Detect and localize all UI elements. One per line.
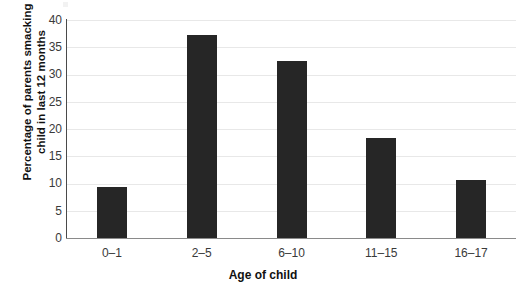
bar-chart: Percentage of parents smacking child in …: [0, 0, 526, 294]
y-tick-label: 35: [36, 41, 62, 53]
gridline: [67, 238, 516, 239]
bar: [97, 187, 127, 238]
x-tick-label: 0–1: [72, 246, 152, 260]
x-tick-label: 16–17: [431, 246, 511, 260]
plot-area: [67, 20, 516, 238]
gridline: [67, 47, 516, 48]
bar: [456, 180, 486, 238]
x-axis-title: Age of child: [0, 268, 526, 282]
bar: [277, 61, 307, 238]
y-tick-label: 20: [36, 123, 62, 135]
y-tick-label: 30: [36, 68, 62, 80]
x-tick-label: 11–15: [341, 246, 421, 260]
y-tick-label: 25: [36, 96, 62, 108]
x-tick-label: 6–10: [252, 246, 332, 260]
y-tick-label: 40: [36, 14, 62, 26]
bar: [187, 35, 217, 238]
bar: [366, 138, 396, 238]
y-tick-label: 0: [36, 232, 62, 244]
y-tick-label: 5: [36, 205, 62, 217]
y-tick-labels: 40 35 30 25 20 15 10 5 0: [30, 0, 62, 260]
gridline: [67, 20, 516, 21]
y-tick-label: 10: [36, 177, 62, 189]
x-tick-label: 2–5: [162, 246, 242, 260]
y-tick-label: 15: [36, 150, 62, 162]
